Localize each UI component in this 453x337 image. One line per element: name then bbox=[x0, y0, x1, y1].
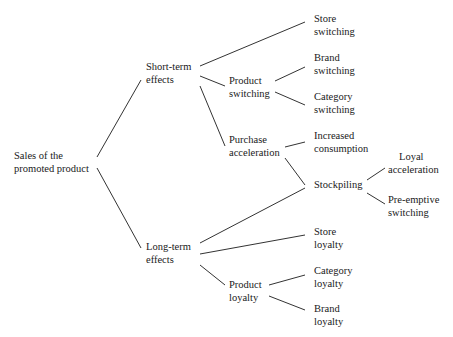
label-line: loyalty bbox=[314, 277, 353, 290]
label-line: Category bbox=[314, 264, 353, 277]
label-line: loyalty bbox=[314, 315, 343, 328]
node-preemptive-switching: Pre-emptive switching bbox=[388, 193, 439, 219]
edge-purchase-increased bbox=[285, 142, 305, 147]
edge-root-long bbox=[97, 168, 141, 248]
node-product-loyalty: Product loyalty bbox=[229, 278, 262, 304]
label-line: consumption bbox=[314, 142, 368, 155]
node-root-line2: promoted product bbox=[14, 162, 89, 175]
node-loyal-acceleration: Loyal acceleration bbox=[388, 150, 439, 176]
label-line: switching bbox=[314, 25, 355, 38]
node-store-switching: Store switching bbox=[314, 12, 355, 38]
edge-product-brand bbox=[275, 67, 305, 81]
edge-short-store-switching bbox=[200, 22, 305, 66]
node-purchase-acceleration: Purchase acceleration bbox=[229, 133, 280, 159]
label-line: Purchase bbox=[229, 133, 280, 146]
label-line: Product bbox=[229, 74, 270, 87]
edge-stockpiling-preemptive bbox=[367, 193, 385, 204]
label-line: Brand bbox=[314, 302, 343, 315]
edge-stockpiling-loyal bbox=[367, 168, 385, 180]
label-line: Product bbox=[229, 278, 262, 291]
label-line: Pre-emptive bbox=[388, 193, 439, 206]
tree-diagram: Sales of the promoted product Short-term… bbox=[0, 0, 453, 337]
label-line: acceleration bbox=[229, 146, 280, 159]
label-line: loyalty bbox=[229, 291, 262, 304]
label-line: Brand bbox=[314, 51, 355, 64]
edge-long-stockpiling bbox=[200, 188, 305, 243]
label-line: Long-term bbox=[146, 240, 191, 253]
node-category-loyalty: Category loyalty bbox=[314, 264, 353, 290]
label-line: Stockpiling bbox=[314, 178, 362, 191]
node-brand-loyalty: Brand loyalty bbox=[314, 302, 343, 328]
label-line: Store bbox=[314, 12, 355, 25]
node-brand-switching: Brand switching bbox=[314, 51, 355, 77]
label-line: switching bbox=[314, 103, 355, 116]
label-line: Store bbox=[314, 225, 343, 238]
label-line: Increased bbox=[314, 129, 368, 142]
label-line: acceleration bbox=[388, 163, 439, 176]
edge-short-purchase-acceleration bbox=[200, 86, 225, 146]
label-line: Category bbox=[314, 90, 355, 103]
edge-productloyalty-category bbox=[269, 275, 305, 285]
label-line: effects bbox=[146, 73, 192, 86]
label-line: switching bbox=[229, 87, 270, 100]
edge-productloyalty-brand bbox=[269, 296, 305, 310]
node-root-line1: Sales of the bbox=[14, 149, 89, 162]
edge-product-category bbox=[275, 92, 305, 105]
label-line: Short-term bbox=[146, 60, 192, 73]
edge-short-product-switching bbox=[200, 76, 225, 86]
label-line: switching bbox=[388, 206, 439, 219]
node-short-term-effects: Short-term effects bbox=[146, 60, 192, 86]
edge-root-short bbox=[97, 80, 141, 157]
node-category-switching: Category switching bbox=[314, 90, 355, 116]
edge-purchase-stockpiling bbox=[285, 158, 305, 185]
node-stockpiling: Stockpiling bbox=[314, 178, 362, 191]
node-product-switching: Product switching bbox=[229, 74, 270, 100]
label-line: Loyal bbox=[388, 150, 439, 163]
edge-long-store-loyalty bbox=[200, 235, 305, 254]
node-store-loyalty: Store loyalty bbox=[314, 225, 343, 251]
label-line: switching bbox=[314, 64, 355, 77]
label-line: loyalty bbox=[314, 238, 343, 251]
node-root: Sales of the promoted product bbox=[14, 149, 89, 175]
node-increased-consumption: Increased consumption bbox=[314, 129, 368, 155]
label-line: effects bbox=[146, 253, 191, 266]
edge-long-product-loyalty bbox=[200, 265, 225, 285]
node-long-term-effects: Long-term effects bbox=[146, 240, 191, 266]
